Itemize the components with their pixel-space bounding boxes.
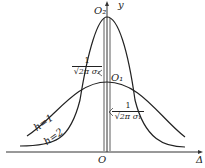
curve-h1 [27, 82, 185, 137]
normal-distribution-diagram [0, 0, 205, 168]
peak-value-sigma2: 1 √2π σ₂ [72, 57, 102, 76]
origin-label: O [98, 155, 106, 165]
peak-value-sigma1: 1 √2π σ₁ [112, 102, 144, 121]
y-axis-label: y [118, 0, 124, 10]
peak-label-o2: O₂ [94, 6, 106, 16]
peak-label-o1: O₁ [111, 73, 123, 83]
x-axis-label: Δ [196, 155, 203, 165]
